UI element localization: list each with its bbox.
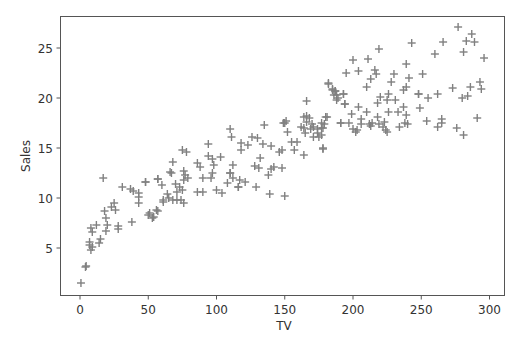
x-tick-label: 100 — [205, 303, 228, 317]
scatter-chart: 050100150200250300 510152025 TV Sales — [0, 0, 521, 345]
y-axis-ticks: 510152025 — [38, 42, 61, 256]
x-tick-label: 0 — [76, 303, 84, 317]
x-tick-label: 300 — [478, 303, 501, 317]
y-axis-label: Sales — [19, 140, 33, 172]
y-tick-label: 10 — [38, 192, 53, 206]
x-tick-label: 250 — [410, 303, 433, 317]
y-tick-label: 5 — [45, 242, 53, 256]
x-axis-label: TV — [275, 319, 292, 333]
y-tick-label: 20 — [38, 92, 53, 106]
plot-background — [61, 17, 505, 296]
x-tick-label: 50 — [141, 303, 156, 317]
x-tick-label: 200 — [342, 303, 365, 317]
y-tick-label: 25 — [38, 42, 53, 56]
x-axis-ticks: 050100150200250300 — [76, 296, 501, 318]
y-tick-label: 15 — [38, 142, 53, 156]
x-tick-label: 150 — [273, 303, 296, 317]
